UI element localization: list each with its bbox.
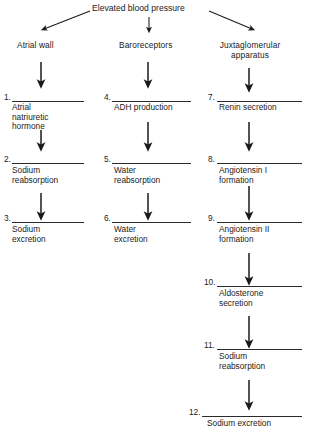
branch-label-juxtaglomerular-apparatus: Juxtaglomerular apparatus <box>214 40 286 60</box>
blank-number-6: 6. <box>104 214 111 223</box>
arrow-layer <box>0 0 311 439</box>
answer-line-12[interactable] <box>202 416 302 417</box>
answer-line-text: formation <box>219 176 267 186</box>
answer-text-3: Sodium excretion <box>12 225 46 244</box>
answer-text-7: Renin secretion <box>219 103 277 113</box>
blank-number-10: 10. <box>204 278 216 287</box>
answer-line-text: formation <box>219 235 269 245</box>
answer-line-8[interactable] <box>217 163 302 164</box>
answer-line-9[interactable] <box>217 222 302 223</box>
answer-text-11: Sodium reabsorption <box>219 352 265 371</box>
answer-text-12: Sodium excretion <box>207 419 271 429</box>
blank-number-3: 3. <box>4 214 11 223</box>
blank-number-9: 9. <box>208 214 215 223</box>
branch-label-line1: Juxtaglomerular <box>220 40 281 50</box>
blank-number-12: 12. <box>189 408 201 417</box>
answer-line-10[interactable] <box>217 286 302 287</box>
blank-number-7: 7. <box>208 93 215 102</box>
answer-line-text: reabsorption <box>219 362 265 372</box>
answer-text-8: Angiotensin I formation <box>219 166 267 185</box>
answer-line-text: Sodium excretion <box>207 419 271 429</box>
answer-text-2: Sodium reabsorption <box>12 166 58 185</box>
blank-number-5: 5. <box>104 155 111 164</box>
blank-number-2: 2. <box>4 155 11 164</box>
answer-line-text: hormone <box>12 122 48 132</box>
answer-line-text: reabsorption <box>12 176 58 186</box>
blank-number-4: 4. <box>104 93 111 102</box>
blank-number-11: 11. <box>204 341 215 350</box>
answer-line-3[interactable] <box>12 222 84 223</box>
answer-text-5: Water reabsorption <box>114 166 160 185</box>
answer-text-10: Aldosterone secretion <box>219 289 263 308</box>
branch-label-atrial-wall: Atrial wall <box>17 40 54 50</box>
diagram-title: Elevated blood pressure <box>92 3 185 13</box>
flowchart-diagram: Elevated blood pressure Atrial wall Baro… <box>0 0 311 439</box>
answer-line-text: excretion <box>12 235 46 245</box>
branch-label-line2: apparatus <box>231 50 269 60</box>
answer-text-6: Water excretion <box>114 225 148 244</box>
blank-number-1: 1. <box>4 93 11 102</box>
branch-label-baroreceptors: Baroreceptors <box>119 40 172 50</box>
answer-line-text: secretion <box>219 299 263 309</box>
answer-line-2[interactable] <box>12 163 84 164</box>
answer-line-text: excretion <box>114 235 148 245</box>
answer-text-4: ADH production <box>114 103 173 113</box>
answer-line-5[interactable] <box>112 163 191 164</box>
answer-text-9: Angiotensin II formation <box>219 225 269 244</box>
answer-line-11[interactable] <box>217 349 302 350</box>
answer-line-text: Renin secretion <box>219 103 277 113</box>
answer-line-text: ADH production <box>114 103 173 113</box>
blank-number-8: 8. <box>208 155 215 164</box>
answer-line-text: reabsorption <box>114 176 160 186</box>
answer-text-1: Atrial natriuretic hormone <box>12 103 48 132</box>
answer-line-6[interactable] <box>112 222 191 223</box>
